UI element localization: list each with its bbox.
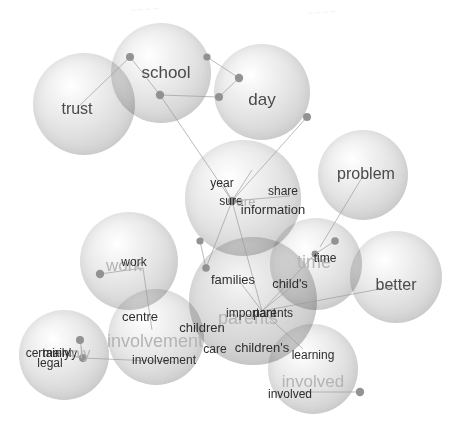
word-label[interactable]: involvement [132,354,196,366]
word-label[interactable]: share [268,185,298,197]
bubble-network-canvas: trustschooldayproblemyearsureareshareinf… [0,0,457,443]
word-label[interactable]: involvement [107,332,203,350]
watermark-smudge: ~~~~ [307,5,337,19]
word-label[interactable]: information [241,203,305,216]
word-label[interactable]: learning [292,349,335,361]
word-label[interactable]: better [376,277,417,293]
word-label[interactable]: children [179,321,225,334]
word-label[interactable]: nly [71,345,90,360]
word-label[interactable]: parents [253,307,293,319]
word-label[interactable]: centre [122,310,158,323]
word-label[interactable]: time [314,252,337,264]
watermark-smudge: ~~~~ [130,2,160,16]
word-label[interactable]: day [248,91,275,108]
word-label[interactable]: trust [61,101,92,117]
word-label[interactable]: problem [337,166,395,182]
word-label[interactable]: legal [37,357,62,369]
word-label[interactable]: year [210,177,233,189]
word-label[interactable]: work [121,256,146,268]
network-node[interactable] [356,388,364,396]
word-label[interactable]: involved [268,388,312,400]
word-label[interactable]: child's [272,277,308,290]
word-label[interactable]: children's [235,341,290,354]
word-label[interactable]: care [203,343,226,355]
word-label[interactable]: families [211,273,255,286]
word-label[interactable]: school [141,64,190,81]
